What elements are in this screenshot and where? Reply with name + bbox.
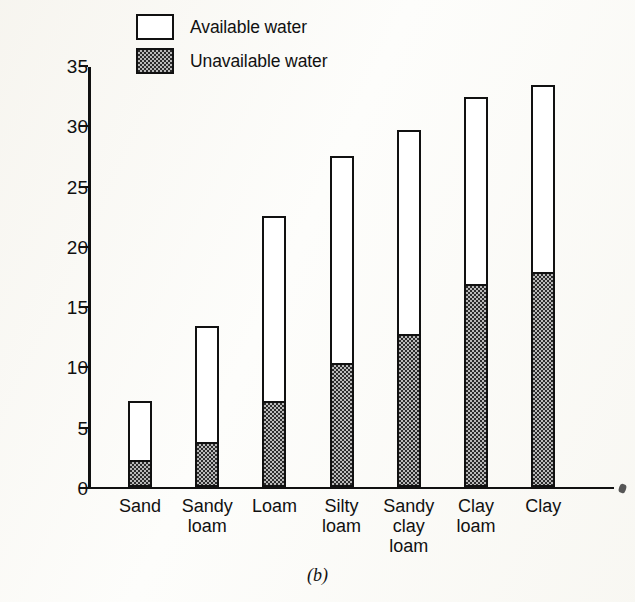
y-tick-label: 35 bbox=[67, 56, 88, 78]
bar[interactable] bbox=[531, 85, 555, 487]
bar[interactable] bbox=[397, 130, 421, 487]
y-tick-label: 20 bbox=[67, 236, 88, 258]
legend-item-available: Available water bbox=[136, 10, 396, 44]
bar[interactable] bbox=[464, 97, 488, 487]
bar[interactable] bbox=[128, 401, 152, 487]
bar-segment-unavailable bbox=[399, 334, 419, 485]
legend-swatch-icon-available bbox=[136, 14, 174, 40]
figure-canvas: Available water Unavailable water 051015… bbox=[0, 0, 635, 602]
bar-segment-unavailable bbox=[332, 363, 352, 485]
x-axis-category-label: Clay bbox=[497, 496, 589, 516]
bar-segment-unavailable bbox=[466, 284, 486, 484]
x-axis-line bbox=[88, 487, 614, 490]
bar[interactable] bbox=[330, 156, 354, 486]
plot-area: 05101520253035 bbox=[88, 67, 598, 489]
y-tick-label: 5 bbox=[77, 417, 88, 439]
y-tick-label: 25 bbox=[67, 176, 88, 198]
y-axis-line bbox=[88, 67, 91, 489]
bar-segment-unavailable bbox=[264, 401, 284, 484]
y-tick-label: 10 bbox=[67, 357, 88, 379]
y-tick-label: 15 bbox=[67, 297, 88, 319]
y-tick-label: 0 bbox=[77, 478, 88, 500]
scan-artifact-mark bbox=[618, 483, 627, 494]
bar-segment-unavailable bbox=[130, 460, 150, 484]
bar[interactable] bbox=[262, 216, 286, 486]
figure-caption: (b) bbox=[0, 565, 635, 586]
bar[interactable] bbox=[195, 326, 219, 486]
bar-segment-unavailable bbox=[197, 442, 217, 484]
y-tick-label: 30 bbox=[67, 116, 88, 138]
legend-label-available: Available water bbox=[190, 17, 307, 38]
bar-segment-unavailable bbox=[533, 272, 553, 484]
